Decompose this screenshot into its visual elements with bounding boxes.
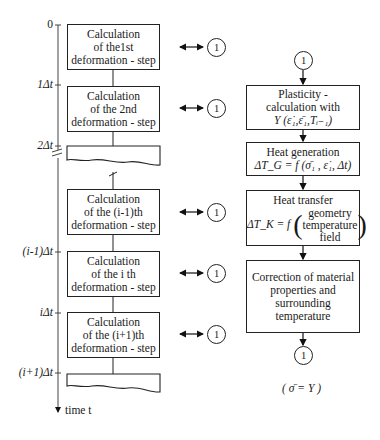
- heat-generation-box: Heat generation ΔT_G = f (σ̄₁ , ε̇₁, Δt): [246, 142, 360, 176]
- box-line: of the1st: [68, 41, 159, 54]
- arg-geometry: geometry: [308, 207, 351, 219]
- plasticity-box: Plasticity - calculation with Y (ε̇₁,ε̄₁…: [246, 85, 360, 130]
- box-line: of the i th: [68, 268, 159, 281]
- box-line: Correction of material: [247, 271, 359, 284]
- box-line: deformation - step: [68, 116, 159, 129]
- box-line: deformation - step: [68, 219, 159, 232]
- tick-i-dt: iΔt: [40, 306, 53, 318]
- arg-field: field: [319, 231, 340, 243]
- box-line: Calculation: [68, 28, 159, 41]
- tick-2dt: 2Δt: [37, 139, 53, 151]
- box-line: Calculation: [68, 255, 159, 268]
- box-line: surrounding: [247, 297, 359, 310]
- box-line: Heat transfer: [247, 194, 359, 207]
- box-line: deformation - step: [68, 281, 159, 294]
- step-box-i-minus-1: Calculation of the (i-1)th deformation -…: [67, 189, 160, 235]
- box-line: of the 2nd: [68, 103, 159, 116]
- connector-circle: 1: [207, 264, 226, 283]
- connector-circle: 1: [207, 38, 226, 57]
- step-box-1st: Calculation of the1st deformation - step: [67, 24, 160, 70]
- step-box-2nd: Calculation of the 2nd deformation - ste…: [67, 86, 160, 132]
- box-line: temperature: [247, 310, 359, 323]
- condition-note: ( σ̄ = Y ): [282, 382, 321, 394]
- tick-i-minus-1-dt: (i-1)Δt: [23, 245, 53, 257]
- box-line: Calculation: [68, 90, 159, 103]
- step-box-i-plus-1: Calculation of the (i+1)th deformation -…: [67, 312, 160, 358]
- box-line: Heat generation: [247, 146, 359, 159]
- time-axis-label: time t: [65, 404, 92, 416]
- correction-box: Correction of material properties and su…: [246, 260, 360, 333]
- connector-circle: 1: [207, 203, 226, 222]
- tick-0: 0: [47, 18, 53, 30]
- box-line: deformation - step: [68, 54, 159, 67]
- arg-temperature: temperature: [302, 219, 357, 231]
- heat-transfer-box: Heat transfer ΔT_K = f ( geometry temper…: [246, 190, 360, 246]
- box-line: Plasticity -: [247, 88, 359, 101]
- box-line: calculation with: [247, 101, 359, 114]
- box-line: ΔT_G = f (σ̄₁ , ε̇₁, Δt): [247, 159, 359, 172]
- box-line: properties and: [247, 284, 359, 297]
- box-line: deformation - step: [68, 342, 159, 355]
- box-line: of the (i-1)th: [68, 206, 159, 219]
- tick-i-plus-1-dt: (i+1)Δt: [19, 366, 53, 378]
- heat-transfer-lhs: ΔT_K = f: [247, 217, 290, 229]
- box-line: Y (ε̇₁,ε̄₁,Tᵢ₋₁): [247, 114, 359, 127]
- step-box-i: Calculation of the i th deformation - st…: [67, 251, 160, 297]
- box-line: Calculation: [68, 316, 159, 329]
- tick-1dt: 1Δt: [37, 78, 53, 90]
- connector-circle: 1: [207, 325, 226, 344]
- box-line: of the (i+1)th: [68, 329, 159, 342]
- connector-circle: 1: [207, 99, 226, 118]
- start-connector: 1: [294, 51, 313, 70]
- end-connector: 1: [294, 346, 313, 365]
- box-line: Calculation: [68, 193, 159, 206]
